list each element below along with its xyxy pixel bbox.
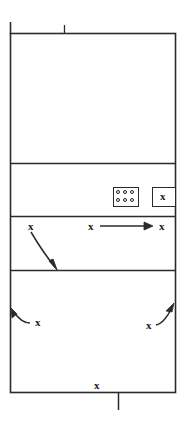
ball-dot bbox=[116, 198, 120, 202]
ball-dot bbox=[123, 198, 127, 202]
ball-dot bbox=[116, 190, 120, 194]
court-diagram bbox=[0, 0, 191, 421]
player-baseline: x bbox=[94, 380, 100, 391]
player-attack-right: x bbox=[159, 221, 165, 232]
player-attack-mid: x bbox=[88, 221, 94, 232]
player-server-box: x bbox=[160, 191, 166, 202]
player-front-left: x bbox=[35, 317, 41, 328]
ball-cart-box bbox=[113, 187, 139, 207]
ball-dot bbox=[130, 190, 134, 194]
player-front-right: x bbox=[146, 320, 152, 331]
diagram-background bbox=[0, 0, 191, 421]
player-attack-left: x bbox=[28, 221, 34, 232]
ball-dot bbox=[130, 198, 134, 202]
ball-dots bbox=[114, 188, 138, 206]
ball-dot bbox=[123, 190, 127, 194]
